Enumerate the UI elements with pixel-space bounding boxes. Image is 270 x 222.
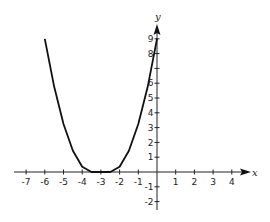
y-tick-label: -1 [145,182,154,192]
x-tick-label: -1 [134,177,143,187]
y-tick-label: -2 [145,197,154,207]
y-tick-label: 2 [148,138,154,148]
tick-labels: -7-6-5-4-3-2-1123498654321-1-2 [22,34,235,207]
y-tick-label: 9 [148,34,154,44]
x-tick-label: -4 [78,177,87,187]
x-axis-label: x [252,167,258,178]
x-tick-label: -3 [96,177,105,187]
axis-ticks [26,39,232,202]
function-curve [45,39,157,172]
y-tick-label: 5 [148,93,154,103]
y-tick-label: 1 [148,152,154,162]
y-axis-label: y [154,11,161,22]
x-tick-label: 3 [210,177,216,187]
x-tick-label: -7 [22,177,31,187]
y-tick-label: 3 [148,123,154,133]
function-graph: -7-6-5-4-3-2-1123498654321-1-2 x y [0,0,270,222]
graph-canvas: -7-6-5-4-3-2-1123498654321-1-2 x y [0,0,270,222]
x-tick-label: -2 [115,177,124,187]
x-tick-label: -5 [59,177,68,187]
y-tick-label: 4 [148,108,154,118]
x-tick-label: 2 [192,177,198,187]
x-tick-label: 1 [173,177,179,187]
x-tick-label: 4 [229,177,235,187]
x-tick-label: -6 [40,177,49,187]
